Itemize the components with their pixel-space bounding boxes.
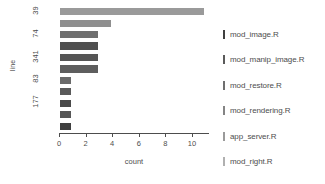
x-axis-tick-mark (139, 133, 140, 137)
legend-label: mod_manip_image.R (230, 55, 304, 64)
x-axis-tick-label: 2 (76, 139, 96, 148)
legend-item[interactable]: mod_rendering.R (222, 105, 290, 117)
legend-item[interactable]: app_server.R (222, 130, 276, 142)
bar (59, 7, 205, 16)
legend: mod_image.Rmod_manip_image.Rmod_restore.… (222, 0, 325, 184)
plot-area (59, 6, 208, 132)
bar (59, 30, 99, 39)
x-axis-tick-label: 4 (102, 139, 122, 148)
bar-chart: line 397434183177 0246810 count mod_imag… (0, 0, 325, 184)
x-axis-tick-mark (112, 133, 113, 137)
x-axis-tick-mark (59, 133, 60, 137)
x-axis-tick-label: 6 (129, 139, 149, 148)
legend-item[interactable]: mod_restore.R (222, 79, 282, 91)
bar (59, 41, 99, 50)
x-axis-title: count (59, 157, 209, 166)
legend-label: mod_restore.R (230, 81, 282, 90)
legend-label: mod_right.R (230, 157, 272, 166)
legend-item[interactable]: mod_right.R (222, 156, 272, 168)
bar (59, 87, 72, 96)
x-axis-tick-label: 0 (49, 139, 69, 148)
legend-swatch-icon (222, 156, 226, 167)
legend-item[interactable]: mod_manip_image.R (222, 54, 304, 66)
bar (59, 19, 112, 28)
x-axis-tick-mark (86, 133, 87, 137)
x-axis-tick-mark (192, 133, 193, 137)
bar (59, 122, 72, 131)
y-axis-tick-label: 83 (31, 68, 40, 90)
x-axis-line (59, 133, 209, 134)
bar (59, 110, 72, 119)
legend-swatch-icon (222, 105, 226, 116)
x-axis-tick-mark (165, 133, 166, 137)
legend-swatch-icon (222, 29, 226, 40)
y-axis-tick-label: 39 (31, 0, 40, 21)
bar (59, 99, 72, 108)
y-axis-tick-label: 177 (31, 91, 40, 113)
legend-label: app_server.R (230, 132, 276, 141)
legend-item[interactable]: mod_image.R (222, 28, 279, 40)
y-axis-title: line (9, 46, 16, 86)
y-axis-tick-label: 341 (31, 45, 40, 67)
legend-swatch-icon (222, 80, 226, 91)
legend-label: mod_image.R (230, 30, 279, 39)
bar (59, 76, 72, 85)
legend-swatch-icon (222, 54, 226, 65)
y-axis-tick-label: 74 (31, 22, 40, 44)
bar (59, 64, 99, 73)
bar (59, 53, 99, 62)
x-axis-tick-label: 8 (155, 139, 175, 148)
legend-label: mod_rendering.R (230, 106, 290, 115)
legend-swatch-icon (222, 131, 226, 142)
x-axis-tick-label: 10 (182, 139, 202, 148)
